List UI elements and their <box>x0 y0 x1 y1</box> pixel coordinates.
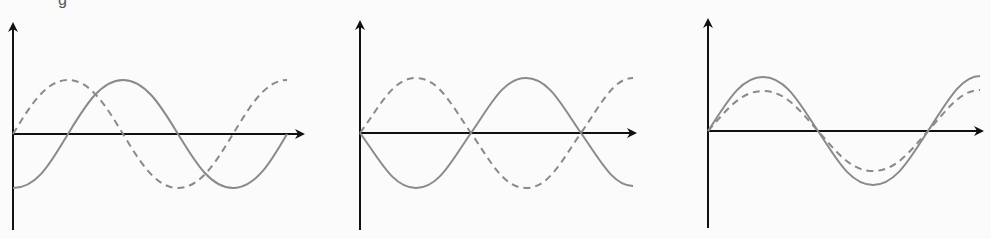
panel-a-phase-90 <box>0 0 330 239</box>
panel-b-phase-180 <box>330 0 660 239</box>
panel-c-in-phase <box>660 0 991 239</box>
